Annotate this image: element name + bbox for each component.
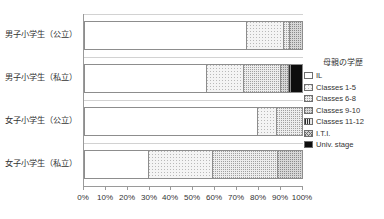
stacked-bar (84, 21, 303, 50)
y-axis-label-3: 女子小学生（私立） (0, 159, 77, 169)
legend-label-classes-6-8: Classes 6-8 (316, 94, 356, 103)
x-axis-tick-label-10: 100% (292, 193, 312, 203)
y-axis-label-2: 女子小学生（公立） (0, 116, 77, 126)
bar-segment-il (85, 108, 258, 135)
legend-swatch-classes-9-10 (304, 107, 313, 114)
x-axis-tick (192, 186, 193, 190)
legend-item-il: IL (304, 70, 384, 81)
y-axis-label-0: 男子小学生（公立） (0, 30, 77, 40)
bar-segment-classes-1-5 (258, 108, 278, 135)
x-axis-tick-label-4: 40% (162, 193, 178, 203)
legend-item-iti: I.T.I. (304, 128, 384, 139)
legend-item-classes-9-10: Classes 9-10 (304, 105, 384, 116)
legend-label-classes-9-10: Classes 9-10 (316, 106, 360, 115)
bar-segment-classes-1-5 (247, 22, 284, 49)
bar-row-3 (84, 143, 303, 186)
legend-swatch-il (304, 72, 313, 79)
x-axis-tick (214, 186, 215, 190)
x-axis-tick-label-0: 0% (77, 193, 89, 203)
legend: 母親の学歴 IL Classes 1-5 Classes 6-8 Classes… (304, 57, 384, 151)
legend-swatch-iti (304, 130, 313, 137)
legend-label-iti: I.T.I. (316, 129, 330, 138)
bar-segment-classes-6-8 (244, 65, 281, 92)
y-axis-labels: 男子小学生（公立） 男子小学生（私立） 女子小学生（公立） 女子小学生（私立） (0, 14, 80, 186)
stacked-bar-chart: 男子小学生（公立） 男子小学生（私立） 女子小学生（公立） 女子小学生（私立） (0, 0, 384, 219)
bar-segment-classes-6-8 (277, 108, 302, 135)
bar-segment-classes-9-10 (278, 151, 302, 178)
legend-swatch-classes-6-8 (304, 95, 313, 102)
legend-label-univ-stage: Univ. stage (316, 140, 353, 149)
legend-item-classes-1-5: Classes 1-5 (304, 82, 384, 93)
x-axis-tick-label-9: 90% (272, 193, 288, 203)
x-axis-tick-label-8: 80% (250, 193, 266, 203)
bar-row-1 (84, 57, 303, 100)
bar-segment-univ-stage (291, 65, 302, 92)
bar-row-0 (84, 14, 303, 57)
x-axis-tick (302, 186, 303, 190)
x-axis-tick (105, 186, 106, 190)
x-axis-tick (83, 186, 84, 190)
bar-row-2 (84, 100, 303, 143)
x-axis-tick-label-6: 60% (206, 193, 222, 203)
y-axis-label-1: 男子小学生（私立） (0, 73, 77, 83)
bar-segment-classes-9-10 (281, 65, 289, 92)
x-axis-tick (280, 186, 281, 190)
plot-area (83, 14, 303, 186)
x-axis-tick (170, 186, 171, 190)
legend-label-classes-1-5: Classes 1-5 (316, 83, 356, 92)
bar-segment-classes-1-5 (149, 151, 213, 178)
legend-label-il: IL (316, 71, 322, 80)
bar-segment-il (85, 65, 207, 92)
bar-segment-il (85, 151, 149, 178)
stacked-bar (84, 64, 303, 93)
bar-segment-classes-6-8 (213, 151, 278, 178)
legend-swatch-univ-stage (304, 141, 313, 148)
stacked-bar (84, 107, 303, 136)
stacked-bar (84, 150, 303, 179)
x-axis-tick (127, 186, 128, 190)
x-axis-tick-label-3: 30% (141, 193, 157, 203)
legend-swatch-classes-1-5 (304, 84, 313, 91)
bar-segment-il (85, 22, 247, 49)
x-axis-tick-label-5: 50% (184, 193, 200, 203)
legend-item-univ-stage: Univ. stage (304, 139, 384, 150)
legend-label-classes-11-12: Classes 11-12 (316, 117, 364, 126)
x-axis-tick-label-2: 20% (119, 193, 135, 203)
x-axis-tick (258, 186, 259, 190)
bar-segment-classes-1-5 (207, 65, 245, 92)
legend-item-classes-11-12: Classes 11-12 (304, 116, 384, 127)
x-axis-tick (236, 186, 237, 190)
x-axis-tick-label-1: 10% (97, 193, 113, 203)
legend-title: 母親の学歴 (302, 57, 384, 68)
x-axis-tick-label-7: 70% (228, 193, 244, 203)
legend-item-classes-6-8: Classes 6-8 (304, 93, 384, 104)
x-axis-tick (149, 186, 150, 190)
bar-segment-classes-9-10 (290, 22, 302, 49)
legend-swatch-classes-11-12 (304, 118, 313, 125)
